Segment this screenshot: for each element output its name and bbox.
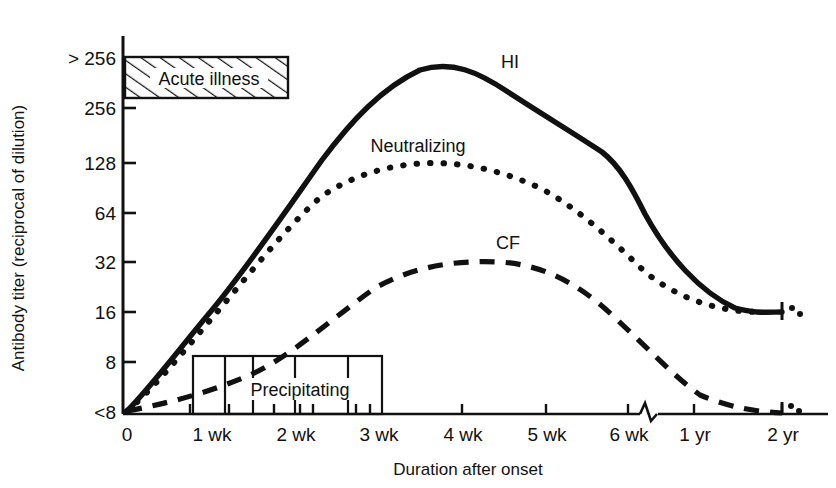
x-axis-title: Duration after onset: [393, 460, 543, 479]
x-tick-label: 4 wk: [443, 424, 483, 445]
precipitating-label: Precipitating: [250, 380, 349, 400]
cf-curve-label: CF: [496, 233, 520, 253]
y-axis-ticks: [123, 108, 136, 362]
x-tick-label: 1 yr: [679, 424, 711, 445]
x-tick-label: 3 wk: [359, 424, 399, 445]
neutralizing-curve-label: Neutralizing: [370, 136, 465, 156]
y-tick-label: 64: [95, 203, 117, 224]
neutralizing-curve: [127, 163, 760, 411]
x-tick-label: 2 yr: [767, 424, 799, 445]
chart-figure: > 256 256 128 64 32 16 8 <8 0 1 wk 2 wk …: [0, 0, 836, 488]
x-tick-label: 0: [122, 424, 133, 445]
x-tick-label: 2 wk: [276, 424, 316, 445]
y-tick-label: 32: [95, 252, 116, 273]
axis-break-icon: [640, 403, 657, 421]
x-axis-ticks: [190, 404, 782, 414]
y-tick-label: 256: [84, 98, 116, 119]
y-axis-tick-labels: > 256 256 128 64 32 16 8 <8: [68, 48, 117, 423]
y-axis-title: Antibody titer (reciprocal of dilution): [9, 105, 28, 371]
acute-illness-box: Acute illness: [125, 57, 288, 98]
x-tick-label: 6 wk: [609, 424, 649, 445]
precipitating-box: Precipitating: [193, 356, 382, 414]
x-tick-label: 5 wk: [527, 424, 567, 445]
antibody-titer-chart: > 256 256 128 64 32 16 8 <8 0 1 wk 2 wk …: [0, 0, 836, 488]
y-tick-label: 8: [105, 352, 116, 373]
y-tick-label: <8: [94, 402, 116, 423]
y-tick-label: 128: [84, 153, 116, 174]
y-tick-label: 16: [95, 302, 116, 323]
x-tick-label: 1 wk: [192, 424, 232, 445]
acute-illness-label: Acute illness: [158, 69, 259, 89]
x-axis-tick-labels: 0 1 wk 2 wk 3 wk 4 wk 5 wk 6 wk 1 yr 2 y…: [122, 424, 800, 445]
curve-endpoint-marks: [782, 302, 803, 414]
hi-curve-label: HI: [501, 52, 519, 72]
y-tick-label: > 256: [68, 48, 116, 69]
